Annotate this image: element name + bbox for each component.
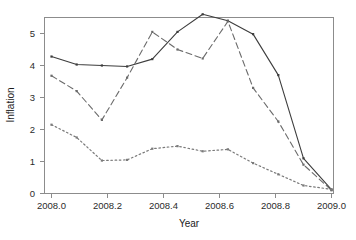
data-point-marker — [302, 184, 304, 186]
y-tick-label-3: 3 — [30, 92, 35, 103]
data-point-marker — [330, 188, 332, 190]
data-point-marker — [302, 164, 304, 166]
y-tick-label-5: 5 — [30, 28, 35, 39]
y-axis-title: Inflation — [5, 87, 16, 122]
data-point-marker — [227, 20, 229, 22]
chart-figure: 0 1 2 3 4 5 2008.0 2008.2 2008.4 2008.6 … — [0, 0, 356, 240]
data-point-marker — [76, 136, 78, 138]
data-point-marker — [277, 74, 279, 76]
y-tick-label-0: 0 — [30, 188, 35, 199]
x-tick-label-2009-0: 2009.0 — [317, 200, 346, 211]
x-tick-label-2008-6: 2008.6 — [205, 200, 234, 211]
x-tick-label-2008-0: 2008.0 — [37, 200, 66, 211]
data-point-marker — [252, 33, 254, 35]
data-point-marker — [176, 48, 178, 50]
data-point-marker — [101, 159, 103, 161]
data-point-marker — [76, 63, 78, 65]
y-tick-label-2: 2 — [30, 124, 35, 135]
x-axis-title: Year — [179, 218, 200, 229]
data-point-marker — [227, 148, 229, 150]
data-point-marker — [302, 157, 304, 159]
data-point-marker — [126, 77, 128, 79]
data-point-marker — [50, 75, 52, 77]
data-point-marker — [126, 159, 128, 161]
y-tick-label-1: 1 — [30, 156, 35, 167]
x-tick-label-2008-4: 2008.4 — [149, 200, 178, 211]
data-point-marker — [50, 55, 52, 57]
data-point-marker — [101, 119, 103, 121]
data-point-marker — [151, 148, 153, 150]
data-point-marker — [202, 57, 204, 59]
chart-canvas: 0 1 2 3 4 5 2008.0 2008.2 2008.4 2008.6 … — [0, 0, 356, 240]
data-point-marker — [101, 64, 103, 66]
data-point-marker — [50, 124, 52, 126]
data-point-marker — [277, 120, 279, 122]
data-point-marker — [176, 31, 178, 33]
data-point-marker — [126, 65, 128, 67]
data-point-marker — [202, 13, 204, 15]
x-tick-label-2008-2: 2008.2 — [93, 200, 122, 211]
data-point-marker — [151, 58, 153, 60]
x-tick-label-2008-8: 2008.8 — [261, 200, 290, 211]
data-point-marker — [202, 150, 204, 152]
y-tick-label-4: 4 — [30, 60, 35, 71]
data-point-marker — [76, 90, 78, 92]
data-point-marker — [151, 31, 153, 33]
data-point-marker — [252, 162, 254, 164]
data-point-marker — [176, 145, 178, 147]
data-point-marker — [252, 87, 254, 89]
data-point-marker — [277, 173, 279, 175]
